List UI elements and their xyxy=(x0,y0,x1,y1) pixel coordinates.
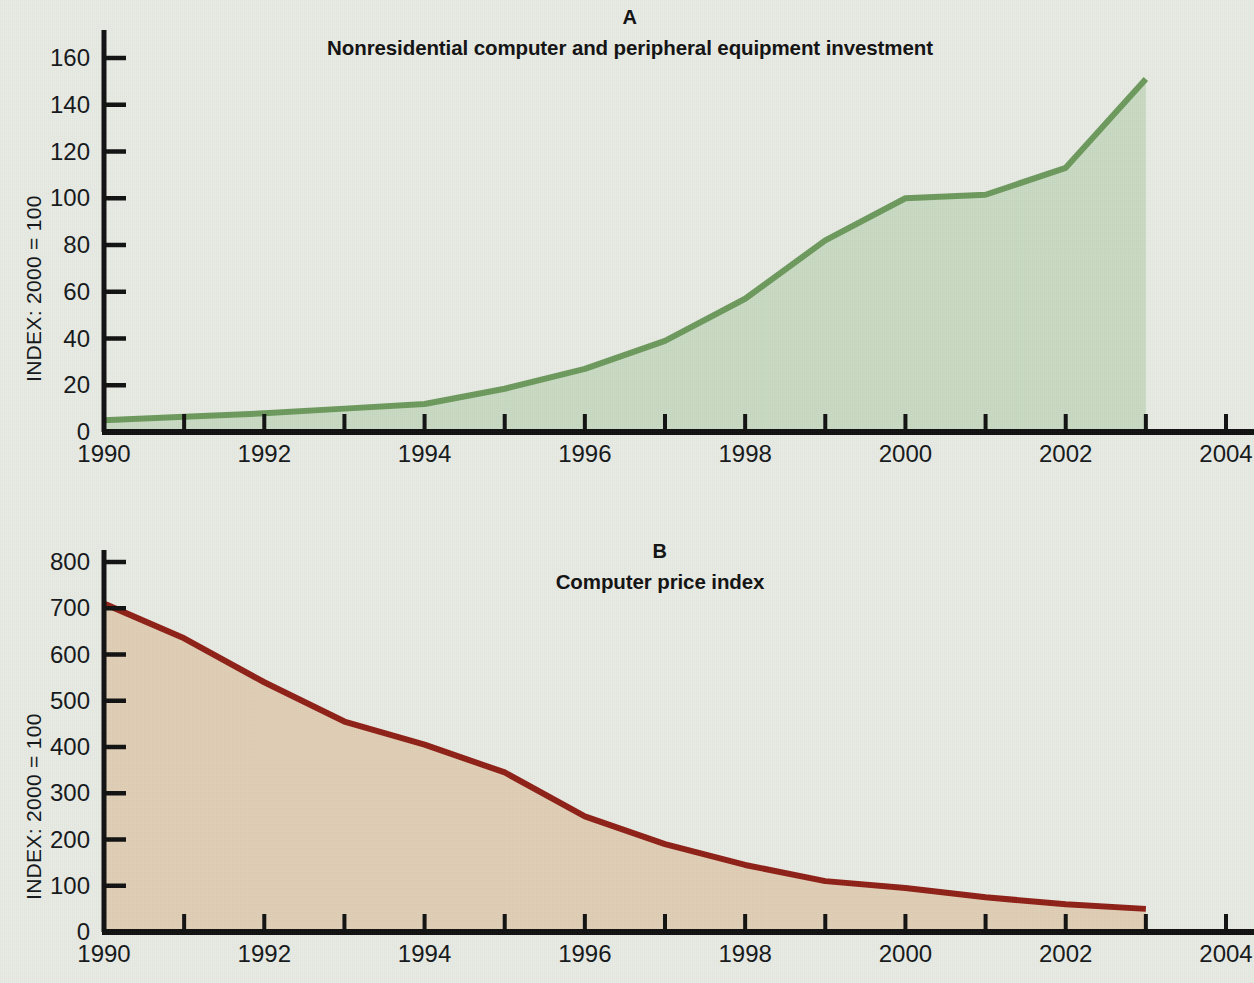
x-axis-tick-label: 2004 xyxy=(1199,440,1252,468)
x-axis-tick-label: 1990 xyxy=(77,440,130,468)
y-axis-tick-label: 400 xyxy=(0,733,90,761)
y-axis-tick-label: 700 xyxy=(0,594,90,622)
x-axis-tick-label: 1990 xyxy=(77,940,130,968)
x-axis-tick-label: 2000 xyxy=(879,440,932,468)
y-axis-tick-label: 300 xyxy=(0,779,90,807)
y-axis-tick-label: 100 xyxy=(0,184,90,212)
x-axis-tick-label: 2002 xyxy=(1039,940,1092,968)
y-axis-tick-label: 600 xyxy=(0,641,90,669)
panel-a-subtitle: Nonresidential computer and peripheral e… xyxy=(130,36,1130,60)
x-axis-tick-label: 1996 xyxy=(558,940,611,968)
panel-b-letter: B xyxy=(560,540,760,563)
y-axis-tick-label: 200 xyxy=(0,826,90,854)
panel-a-letter: A xyxy=(530,6,730,29)
series-area-fill xyxy=(104,79,1146,432)
y-axis-tick-label: 500 xyxy=(0,687,90,715)
chart-panel-b: B Computer price index INDEX: 2000 = 100… xyxy=(0,500,1254,983)
series-area-fill xyxy=(104,604,1146,932)
x-axis-tick-label: 1992 xyxy=(238,440,291,468)
x-axis-tick-label: 1994 xyxy=(398,440,451,468)
x-axis-tick-label: 1998 xyxy=(718,440,771,468)
y-axis-tick-label: 800 xyxy=(0,548,90,576)
y-axis-tick-label: 140 xyxy=(0,91,90,119)
x-axis-tick-label: 2000 xyxy=(879,940,932,968)
y-axis-tick-label: 40 xyxy=(0,325,90,353)
y-axis-tick-label: 120 xyxy=(0,138,90,166)
y-axis-tick-label: 80 xyxy=(0,231,90,259)
chart-a-plot xyxy=(0,0,1254,500)
x-axis-tick-label: 1996 xyxy=(558,440,611,468)
x-axis-tick-label: 2002 xyxy=(1039,440,1092,468)
x-axis-tick-label: 2004 xyxy=(1199,940,1252,968)
panel-b-subtitle: Computer price index xyxy=(160,570,1160,594)
y-axis-tick-label: 20 xyxy=(0,371,90,399)
x-axis-tick-label: 1992 xyxy=(238,940,291,968)
x-axis-tick-label: 1994 xyxy=(398,940,451,968)
y-axis-tick-label: 160 xyxy=(0,44,90,72)
y-axis-tick-label: 100 xyxy=(0,872,90,900)
y-axis-tick-label: 60 xyxy=(0,278,90,306)
x-axis-tick-label: 1998 xyxy=(718,940,771,968)
chart-panel-a: A Nonresidential computer and peripheral… xyxy=(0,0,1254,500)
